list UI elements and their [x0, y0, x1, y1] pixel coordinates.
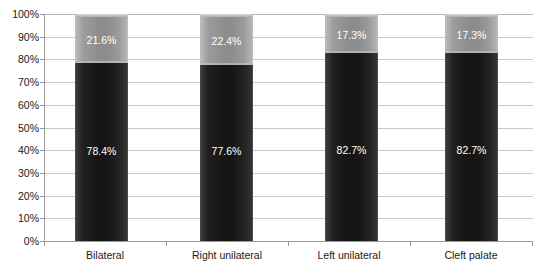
y-axis-tick-label: 0% [24, 236, 39, 247]
y-axis-tick-label: 20% [18, 190, 39, 201]
y-axis-tick-label: 10% [18, 213, 39, 224]
x-axis-tick [44, 242, 45, 246]
bar-value-label: 82.7% [326, 145, 377, 156]
y-axis-tick-label: 70% [18, 77, 39, 88]
bar-cleft-palate[interactable]: 82.7% 17.3% [445, 14, 498, 241]
bar-value-label: 77.6% [201, 146, 252, 157]
y-axis-tick-label: 80% [18, 54, 39, 65]
y-axis-tick-label: 50% [18, 122, 39, 133]
y-axis-tick-label: 30% [18, 168, 39, 179]
bar-segment-lower[interactable]: 82.7% [445, 53, 498, 241]
bar-segment-lower[interactable]: 82.7% [325, 53, 378, 241]
x-axis-tick [410, 242, 411, 246]
y-axis-tick-label: 40% [18, 145, 39, 156]
bar-value-label: 78.4% [76, 146, 127, 157]
bar-right-unilateral[interactable]: 77.6% 22.4% [200, 14, 253, 241]
bar-segment-upper[interactable]: 17.3% [325, 14, 378, 53]
bar-value-label: 17.3% [446, 30, 497, 41]
y-axis-tick-label: 100% [12, 9, 39, 20]
bar-segment-lower[interactable]: 77.6% [200, 65, 253, 241]
bar-segment-lower[interactable]: 78.4% [75, 63, 128, 241]
x-axis-category-label: Right unilateral [166, 250, 288, 261]
y-axis-tick-label: 90% [18, 31, 39, 42]
bar-value-label: 22.4% [201, 36, 252, 47]
x-axis-tick [166, 242, 167, 246]
x-axis-tick [288, 242, 289, 246]
x-axis-category-label: Left unilateral [288, 250, 410, 261]
y-axis-tick-label: 60% [18, 100, 39, 111]
bar-segment-upper[interactable]: 17.3% [445, 14, 498, 53]
plot-area: 78.4% 21.6% 77.6% 22.4% 82.7% 17.3% [44, 14, 533, 241]
y-axis-labels: 100% 90% 80% 70% 60% 50% 40% 30% 20% 10%… [0, 0, 42, 271]
x-axis-category-label: Cleft palate [410, 250, 532, 261]
bar-left-unilateral[interactable]: 82.7% 17.3% [325, 14, 378, 241]
x-axis-tick [532, 242, 533, 246]
bar-value-label: 21.6% [76, 35, 127, 46]
bar-segment-upper[interactable]: 21.6% [75, 14, 128, 63]
bar-segment-upper[interactable]: 22.4% [200, 14, 253, 65]
bar-value-label: 82.7% [446, 145, 497, 156]
y-axis-line [44, 14, 45, 242]
bar-bilateral[interactable]: 78.4% 21.6% [75, 14, 128, 241]
stacked-bar-chart: 100% 90% 80% 70% 60% 50% 40% 30% 20% 10%… [0, 0, 543, 271]
bar-value-label: 17.3% [326, 30, 377, 41]
x-axis-category-label: Bilateral [44, 250, 166, 261]
